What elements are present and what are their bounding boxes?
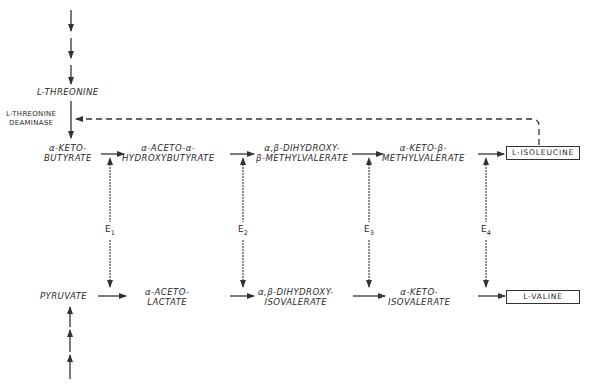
dihydroxy-methylvalerate: α,β-DIHYDROXY- β-METHYLVALERATE [256, 144, 348, 163]
alpha-ketoisovalerate: α-KETO- ISOVALERATE [388, 288, 450, 307]
pyruvate: PYRUVATE [40, 292, 87, 302]
l-valine-box: L-VALINE [506, 290, 580, 304]
alpha-ketobutyrate: α-KETO- BUTYRATE [44, 144, 92, 163]
enzyme-e4: E4 [481, 222, 491, 239]
alpha-keto-beta-methylvalerate: α-KETO-β- METHYLVALERATE [382, 144, 465, 163]
pathway-connectors [0, 0, 592, 391]
enzyme-e1: E1 [105, 222, 115, 239]
alpha-acetolactate: α-ACETO- LACTATE [145, 288, 189, 307]
enzyme-e3: E3 [364, 222, 374, 239]
enzyme-e2: E2 [238, 222, 248, 239]
dihydroxy-isovalerate: α,β-DIHYDROXY- ISOVALERATE [258, 288, 334, 307]
l-isoleucine-box: L-ISOLEUCINE [506, 146, 580, 160]
threonine-deaminase-label: L-THREONINE DEAMINASE [6, 110, 56, 127]
alpha-aceto-alpha-hydroxybutyrate: α-ACETO-α- HYDROXYBUTYRATE [122, 144, 215, 163]
l-threonine-label: L-THREONINE [37, 88, 99, 98]
